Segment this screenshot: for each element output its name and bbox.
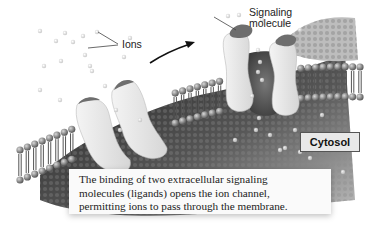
signaling-molecule-label-line2: molecule: [249, 18, 292, 29]
lipid-head: [39, 167, 46, 174]
ion: [257, 116, 261, 120]
lipid-head: [312, 64, 319, 71]
cytosol-label: Cytosol: [300, 132, 360, 152]
lipid-head: [24, 143, 31, 150]
ion: [233, 138, 237, 142]
ion: [42, 64, 46, 68]
ion: [278, 148, 282, 152]
ion: [58, 98, 62, 102]
lipid-head: [172, 89, 179, 96]
lipid-head: [201, 111, 208, 118]
ion: [83, 53, 87, 57]
lipid-head: [179, 87, 186, 94]
ion: [122, 55, 126, 59]
lipid-head: [201, 81, 208, 88]
ion: [103, 84, 107, 88]
signaling-molecule: [275, 34, 296, 46]
ion: [308, 156, 312, 160]
lipid-head: [356, 63, 363, 70]
ion: [81, 34, 85, 38]
lipid-head: [327, 63, 334, 70]
lipid-head: [31, 140, 38, 147]
ion: [256, 70, 260, 74]
lipid-head: [24, 173, 31, 180]
lipid-head: [209, 109, 216, 116]
ion: [250, 94, 254, 98]
ions-label: Ions: [122, 39, 142, 50]
transition-arrow: [150, 44, 190, 63]
lipid-head: [39, 137, 46, 144]
ion: [226, 14, 230, 18]
lipid-head: [319, 63, 326, 70]
annotation-lines: [88, 17, 236, 63]
ion: [260, 78, 264, 82]
lipid-head: [209, 79, 216, 86]
ion: [138, 118, 142, 122]
lipid-head: [334, 93, 341, 100]
lipid-head: [16, 146, 23, 153]
caption-line: The binding of two extracellular signali…: [79, 173, 323, 187]
lipid-head: [342, 63, 349, 70]
lipid-head: [349, 63, 356, 70]
lipid-head: [68, 156, 75, 163]
lipid-head: [194, 83, 201, 90]
ion: [258, 60, 262, 64]
lipid-head: [186, 115, 193, 122]
ion: [38, 29, 42, 33]
lipid-head: [334, 63, 341, 70]
ion: [38, 88, 42, 92]
caption-line: permitting ions to pass through the memb…: [79, 200, 323, 214]
lipid-head: [216, 78, 223, 85]
lipid-head: [194, 113, 201, 120]
lipid-head: [61, 159, 68, 166]
lipid-head: [172, 119, 179, 126]
lipid-head: [356, 93, 363, 100]
arrowhead-icon: [185, 41, 195, 48]
ion: [283, 146, 287, 150]
lipid-head: [16, 176, 23, 183]
lipid-head: [179, 117, 186, 124]
open-ion-channel: [223, 25, 299, 116]
ion: [237, 13, 241, 17]
ion: [256, 48, 260, 52]
lipid-head: [61, 129, 68, 136]
ion: [118, 128, 122, 132]
ion: [268, 133, 272, 137]
lipid-head: [53, 162, 60, 169]
lipid-head: [46, 165, 53, 172]
ion: [293, 128, 297, 132]
lipid-head: [216, 108, 223, 115]
ion: [71, 40, 75, 44]
ions-pointer-line: [98, 32, 118, 44]
signaling-molecule-label: Signaling molecule: [249, 7, 292, 29]
lipid-head: [186, 85, 193, 92]
lipid-head: [342, 93, 349, 100]
ion: [54, 39, 58, 43]
ion: [341, 170, 345, 174]
lipid-head: [349, 93, 356, 100]
ion: [114, 108, 118, 112]
lipid-head: [46, 135, 53, 142]
lipid-head: [327, 93, 334, 100]
lipid-head: [297, 65, 304, 72]
ion: [59, 59, 63, 63]
lipid-head: [31, 170, 38, 177]
lipid-head: [305, 94, 312, 101]
ion: [88, 64, 92, 68]
ion: [254, 128, 258, 132]
lipid-head: [312, 94, 319, 101]
lipid-head: [305, 64, 312, 71]
caption-line: molecules (ligands) opens the ion channe…: [79, 187, 323, 201]
lipid-head: [68, 126, 75, 133]
lipid-head: [53, 132, 60, 139]
ion: [63, 31, 67, 35]
caption-box: The binding of two extracellular signali…: [69, 169, 331, 214]
ion: [320, 113, 324, 117]
ion: [298, 28, 302, 32]
ions-pointer-line: [88, 45, 118, 48]
signaling-pointer-line: [214, 17, 236, 30]
lipid-head: [319, 93, 326, 100]
ion: [90, 69, 94, 73]
